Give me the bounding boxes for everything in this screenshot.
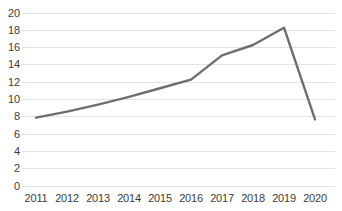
y-axis-tick-label: 8 [0, 111, 20, 122]
line-chart: 02468101214161820 2011201220132014201520… [0, 0, 342, 211]
y-axis-tick-label: 18 [0, 25, 20, 36]
y-axis-tick-label: 12 [0, 77, 20, 88]
x-axis-tick-label: 2014 [112, 193, 146, 204]
y-axis-tick-label: 4 [0, 146, 20, 157]
series-line [36, 28, 315, 120]
x-axis-tick-label: 2019 [267, 193, 301, 204]
y-axis-tick-label: 0 [0, 181, 20, 192]
y-axis-tick-label: 20 [0, 8, 20, 19]
x-axis-tick-label: 2013 [81, 193, 115, 204]
x-axis-tick-label: 2015 [143, 193, 177, 204]
x-axis-tick-label: 2016 [174, 193, 208, 204]
chart-canvas [0, 0, 342, 211]
x-axis-tick-label: 2020 [298, 193, 332, 204]
x-axis-tick-label: 2011 [19, 193, 53, 204]
x-axis-tick-label: 2017 [205, 193, 239, 204]
y-axis-tick-label: 6 [0, 129, 20, 140]
y-axis-tick-label: 16 [0, 42, 20, 53]
x-axis-tick-label: 2012 [50, 193, 84, 204]
y-axis-tick-label: 2 [0, 163, 20, 174]
data-series-group [36, 28, 315, 120]
x-axis-tick-label: 2018 [236, 193, 270, 204]
y-axis-tick-label: 14 [0, 59, 20, 70]
y-axis-tick-label: 10 [0, 94, 20, 105]
